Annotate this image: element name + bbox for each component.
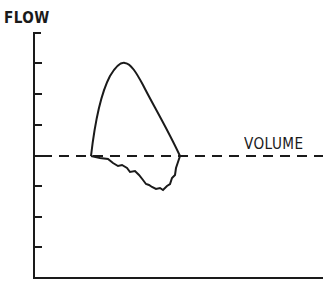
flow-volume-diagram [0,0,333,291]
expiratory-limb [91,63,180,156]
inspiratory-limb [91,156,180,190]
y-axis-ticks [34,33,42,247]
